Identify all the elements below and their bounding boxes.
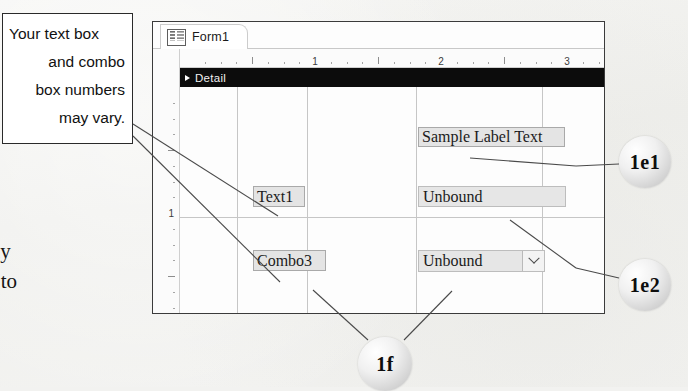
ruler-tick-horizontal: [205, 62, 206, 64]
ruler-tick-vertical: [173, 182, 175, 183]
ruler-tick-vertical: [173, 260, 175, 261]
unbound-combobox-text: Unbound: [423, 252, 483, 270]
ruler-tick-vertical: [173, 245, 175, 246]
ruler-tick-horizontal: [551, 62, 552, 64]
vertical-ruler[interactable]: 1: [153, 49, 180, 313]
ruler-tick-horizontal: [331, 62, 332, 64]
ruler-tick-horizontal: [362, 62, 363, 64]
grid-guide-vertical: [307, 87, 308, 313]
ruler-tick-horizontal: [347, 62, 348, 64]
ruler-tick-horizontal: [473, 62, 474, 64]
unbound-combobox[interactable]: Unbound: [418, 250, 545, 272]
ruler-tick-horizontal: [268, 62, 269, 64]
ruler-tick-horizontal: [236, 62, 237, 64]
callout-note-box: Your text box and combo box numbers may …: [2, 13, 133, 144]
ruler-tick-horizontal: [583, 62, 584, 64]
ruler-tick-vertical: [173, 103, 175, 104]
ruler-tick-vertical: [173, 292, 175, 293]
form-design-surface[interactable]: Sample Label TextText1UnboundCombo3Unbou…: [180, 87, 604, 313]
text1-label-text: Text1: [257, 188, 293, 206]
ruler-tick-horizontal: [599, 62, 600, 64]
sample-label-text: Sample Label Text: [422, 128, 542, 146]
ruler-tick-horizontal: [520, 62, 521, 64]
body-line-2: lied to: [0, 266, 114, 296]
ruler-tick-vertical: [168, 150, 175, 151]
callout-marker-1e1: 1e1: [619, 136, 671, 188]
unbound-textbox-text: Unbound: [423, 188, 483, 206]
callout-marker-1e2-label: 1e2: [630, 274, 660, 297]
ruler-tick-vertical: [173, 134, 175, 135]
combo3-label[interactable]: Combo3: [253, 250, 326, 271]
ruler-tick-horizontal: [378, 57, 379, 64]
ruler-tick-horizontal: [394, 62, 395, 64]
grid-guide-vertical: [416, 87, 417, 313]
section-expander-triangle-icon: [185, 75, 190, 81]
ruler-tick-horizontal: [410, 62, 411, 64]
sample-label[interactable]: Sample Label Text: [418, 127, 565, 147]
tab-form1-label: Form1: [192, 30, 229, 44]
ruler-tick-horizontal: [284, 62, 285, 64]
callout-note-line-2: and combo: [9, 48, 125, 76]
tab-form1[interactable]: Form1: [160, 24, 248, 49]
ruler-tick-vertical: [173, 166, 175, 167]
callout-marker-1e1-label: 1e1: [630, 151, 660, 174]
callout-marker-1f: 1f: [358, 337, 412, 391]
ruler-tick-vertical: [173, 197, 175, 198]
callout-note-line-1: Your text box: [9, 20, 125, 48]
body-line-5: n: [0, 356, 114, 386]
ruler-tick-horizontal: [299, 62, 300, 64]
ruler-number-horizontal: 2: [438, 56, 444, 67]
ruler-number-vertical: 1: [168, 208, 174, 219]
callout-marker-1e2: 1e2: [619, 259, 671, 311]
access-form-design-window: Form1 123 1 Detail Sample Label TextText…: [152, 21, 605, 314]
document-tab-strip: Form1: [153, 22, 604, 49]
ruler-tick-horizontal: [504, 57, 505, 64]
ruler-tick-vertical: [173, 308, 175, 309]
grid-guide-vertical: [237, 87, 238, 313]
ruler-tick-horizontal: [488, 62, 489, 64]
callout-note-line-4: may vary.: [9, 104, 125, 132]
text1-label[interactable]: Text1: [253, 186, 305, 207]
ruler-tick-horizontal: [425, 62, 426, 64]
body-line-3: 1d.: [0, 296, 114, 326]
ruler-number-horizontal: 1: [312, 56, 318, 67]
detail-section-header[interactable]: Detail: [180, 68, 604, 87]
ruler-tick-vertical: [168, 276, 175, 277]
combo3-label-text: Combo3: [257, 252, 312, 270]
ruler-tick-horizontal: [221, 62, 222, 64]
unbound-textbox[interactable]: Unbound: [418, 186, 566, 207]
body-line-4: sign: [0, 326, 114, 356]
chevron-down-icon[interactable]: [522, 251, 544, 271]
callout-note-line-3: box numbers: [9, 76, 125, 104]
chevron-glyph: [528, 253, 539, 264]
ruler-tick-vertical: [173, 229, 175, 230]
ruler-number-horizontal: 3: [564, 56, 570, 67]
grid-guide-horizontal: [180, 217, 604, 218]
ruler-tick-horizontal: [252, 57, 253, 64]
horizontal-ruler[interactable]: 123: [180, 49, 604, 68]
ruler-tick-horizontal: [457, 62, 458, 64]
ruler-tick-vertical: [173, 119, 175, 120]
form-design-icon: [167, 29, 186, 46]
detail-section-label: Detail: [195, 72, 226, 84]
ruler-tick-horizontal: [536, 62, 537, 64]
body-paragraph: apply lied to 1d. sign n: [0, 236, 114, 386]
callout-marker-1f-label: 1f: [376, 353, 394, 376]
body-line-1: apply: [0, 236, 114, 266]
